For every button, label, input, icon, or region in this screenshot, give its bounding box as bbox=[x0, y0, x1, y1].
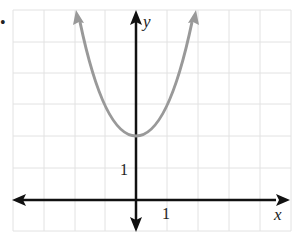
x-axis-label: x bbox=[273, 205, 282, 224]
parabola-graph: • y x 1 1 bbox=[0, 0, 294, 234]
bullet-marker: • bbox=[0, 14, 6, 31]
y-axis-label: y bbox=[141, 12, 151, 31]
x-tick-label: 1 bbox=[162, 205, 170, 222]
grid bbox=[13, 10, 291, 231]
x-axis bbox=[12, 194, 290, 206]
y-tick-label: 1 bbox=[120, 161, 128, 178]
curve-arrow-right-icon bbox=[188, 10, 199, 25]
y-axis bbox=[130, 10, 142, 232]
